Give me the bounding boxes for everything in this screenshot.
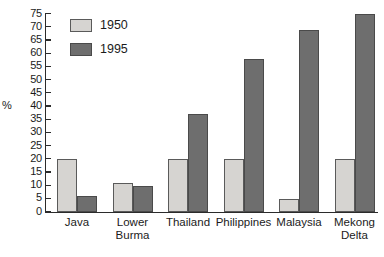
legend-swatch — [70, 43, 92, 56]
y-axis-tick-label-wrap: 30 — [14, 126, 42, 137]
y-axis-tick-label-wrap: 40 — [14, 100, 42, 111]
y-axis-tick-label: 55 — [16, 60, 42, 71]
y-axis-tick-label: 25 — [16, 140, 42, 151]
bar-group — [218, 14, 270, 212]
legend-swatch — [70, 19, 92, 32]
y-axis-tick-label-wrap: 15 — [14, 166, 42, 177]
y-axis-tick-label: 0 — [16, 206, 42, 217]
y-axis-tick-label: 5 — [16, 192, 42, 203]
bar-chart-figure: % 051015202530354045505560657075 JavaLow… — [0, 0, 384, 257]
y-axis-tick-label: 50 — [16, 74, 42, 85]
y-axis-tick-label: 65 — [16, 34, 42, 45]
bar-group — [273, 14, 325, 212]
bar — [299, 30, 319, 212]
bar — [168, 159, 188, 212]
y-axis-tick-label-wrap: 50 — [14, 74, 42, 85]
bar — [57, 159, 77, 212]
bar — [133, 186, 153, 212]
y-axis-tick-label-wrap: 60 — [14, 47, 42, 58]
bar-group — [329, 14, 381, 212]
legend-label: 1950 — [100, 18, 128, 33]
y-axis-tick-label: 75 — [16, 8, 42, 19]
y-axis-tick-label-wrap: 20 — [14, 153, 42, 164]
y-axis-tick-label-wrap: 10 — [14, 179, 42, 190]
bar — [113, 183, 133, 212]
plot-area — [46, 14, 378, 212]
figure-caption — [18, 249, 368, 257]
y-axis-tick-label: 10 — [16, 179, 42, 190]
y-axis-tick-label: 60 — [16, 47, 42, 58]
y-axis-tick-label: 45 — [16, 87, 42, 98]
y-axis-tick-label-wrap: 0 — [14, 206, 42, 217]
y-axis-tick-label: 15 — [16, 166, 42, 177]
y-axis-tick-label-wrap: 65 — [14, 34, 42, 45]
y-axis-tick-label-wrap: 5 — [14, 192, 42, 203]
y-axis-tick-label-wrap: 35 — [14, 113, 42, 124]
bar — [335, 159, 355, 212]
bar — [188, 114, 208, 212]
y-axis-tick-label: 35 — [16, 113, 42, 124]
bar — [224, 159, 244, 212]
bar — [244, 59, 264, 212]
bar — [355, 14, 375, 212]
y-axis-unit-label: % — [2, 100, 12, 111]
y-axis-tick-label: 70 — [16, 21, 42, 32]
bar — [279, 199, 299, 212]
x-axis-category-label: Mekong Delta — [315, 216, 384, 242]
y-axis-tick-label: 20 — [16, 153, 42, 164]
y-axis-tick-label-wrap: 70 — [14, 21, 42, 32]
y-axis-tick-label-wrap: 45 — [14, 87, 42, 98]
y-axis-tick-label-wrap: 25 — [14, 140, 42, 151]
bar — [77, 196, 97, 212]
bar-group — [162, 14, 214, 212]
y-axis-tick-label: 30 — [16, 126, 42, 137]
y-axis-tick-label-wrap: 75 — [14, 8, 42, 19]
legend-label: 1995 — [100, 42, 128, 57]
y-axis-tick-label: 40 — [16, 100, 42, 111]
y-axis-tick-label-wrap: 55 — [14, 60, 42, 71]
